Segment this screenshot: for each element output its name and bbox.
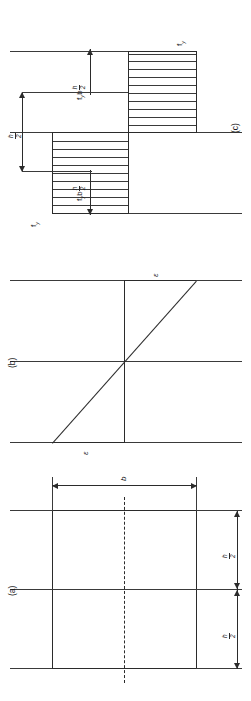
section-a-dim-arrow-right	[234, 511, 240, 517]
lever-arm-dim-line	[22, 92, 23, 172]
lever-arm-ext-left	[22, 171, 56, 172]
force-arrow-tension-head	[87, 49, 93, 55]
fy-bottom-symbol: f	[175, 44, 184, 46]
force-label-compression: fyb h 2	[72, 186, 87, 201]
stress-label-fy-bottom: fy	[176, 41, 186, 46]
section-a-width-label: b	[120, 476, 128, 481]
lever-arm-denominator: 2	[15, 133, 23, 139]
stress-block-bottom-left-edge	[128, 132, 197, 133]
force-arrow-tension-line	[90, 49, 91, 95]
section-a-dim-arrow-mid-right	[234, 583, 240, 589]
figure-canvas: b h 2 h 2 (a)	[0, 0, 251, 701]
force-c-frac-den: 2	[79, 186, 87, 192]
stress-block-bottom-right-edge	[128, 51, 197, 52]
section-b-left-edge	[10, 442, 242, 443]
force-c-b: b	[75, 191, 84, 196]
stress-block-top-inner-edge	[128, 132, 129, 214]
stress-block-bottom-inner-edge	[128, 51, 129, 133]
lever-arm-numerator: h	[8, 133, 15, 139]
section-a-dim-line-b	[52, 485, 197, 486]
section-a-top-edge	[52, 511, 53, 669]
force-c-symbol: f	[75, 199, 84, 201]
fy-top-subscript: y	[34, 222, 40, 225]
stress-label-fy-top: fy	[30, 222, 40, 227]
section-a-halfdepth-label-left: h 2	[222, 633, 237, 639]
stress-block-top-right-edge	[52, 132, 129, 133]
section-c-left-edge-lower	[128, 213, 242, 214]
section-a-ext-left-top	[10, 668, 52, 669]
force-t-symbol: f	[75, 98, 84, 100]
halfdepth-right-denominator: 2	[229, 553, 237, 559]
section-a-centerline-vertical	[10, 589, 242, 590]
fy-top-symbol: f	[29, 225, 38, 227]
force-t-frac-num: h	[72, 85, 79, 91]
section-a-dim-arrow-mid-left	[234, 590, 240, 596]
part-marker-b: (b)	[7, 358, 17, 368]
halfdepth-right-numerator: h	[222, 553, 229, 559]
section-a-halfdepth-label-right: h 2	[222, 553, 237, 559]
section-a-bottom-edge	[196, 511, 197, 669]
section-b-strain-bottom-boundary	[124, 280, 196, 281]
lever-arm-label: h 2	[8, 133, 23, 139]
part-marker-c: (c)	[230, 123, 240, 133]
part-marker-a: (a)	[7, 586, 17, 596]
fy-bottom-subscript: y	[180, 41, 186, 44]
section-b-strain-label-top: ε	[82, 451, 90, 455]
figure-stage: b h 2 h 2 (a)	[0, 0, 251, 701]
stress-block-bottom-outer-edge	[196, 51, 197, 133]
force-c-frac-num: h	[72, 186, 79, 192]
section-b-strain-label-bottom: ε	[152, 273, 160, 277]
section-a-centroid-axis	[124, 497, 125, 683]
section-c-right-edge-upper	[10, 51, 128, 52]
lever-arm-ext-right	[22, 92, 90, 93]
section-b-strain-top-boundary	[52, 442, 125, 443]
force-t-frac-den: 2	[79, 85, 87, 91]
section-a-dim-arrow-top	[52, 483, 58, 489]
force-t-subscript: y	[79, 95, 85, 98]
halfdepth-left-denominator: 2	[229, 633, 237, 639]
section-a-ext-right-top	[10, 510, 52, 511]
halfdepth-left-numerator: h	[222, 633, 229, 639]
force-arrow-tension-riser	[90, 92, 128, 93]
force-c-subscript: y	[79, 196, 85, 199]
force-arrow-compression-riser	[56, 171, 92, 172]
force-arrow-compression-head	[87, 209, 93, 215]
section-a-dim-arrow-left	[234, 663, 240, 669]
section-a-dim-arrow-bottom	[191, 483, 197, 489]
